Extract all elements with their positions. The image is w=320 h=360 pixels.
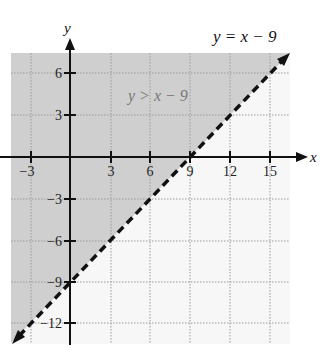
x-tick-label: 12 — [223, 164, 237, 179]
y-tick-label: −6 — [47, 234, 62, 249]
x-tick-label: 6 — [147, 164, 154, 179]
x-axis-label: x — [309, 149, 317, 165]
y-axis-label: y — [62, 20, 71, 36]
y-tick-label: −9 — [47, 275, 62, 290]
line-equation-label: y = x − 9 — [211, 27, 277, 46]
region-label: y > x − 9 — [126, 87, 188, 105]
y-tick-label: −12 — [40, 316, 62, 331]
y-tick-label: 6 — [55, 66, 62, 81]
y-axis-arrow-icon — [65, 38, 75, 50]
x-tick-label: 9 — [187, 164, 194, 179]
y-tick-label: −3 — [47, 192, 62, 207]
inequality-graph: −3 3 6 9 12 15 6 3 −3 −6 −9 −12 x y y = … — [0, 0, 320, 360]
x-axis-arrow-icon — [296, 152, 308, 162]
x-tick-label: 3 — [108, 164, 115, 179]
x-tick-label: 15 — [263, 164, 277, 179]
y-tick-label: 3 — [55, 108, 62, 123]
x-tick-label: −3 — [20, 164, 35, 179]
